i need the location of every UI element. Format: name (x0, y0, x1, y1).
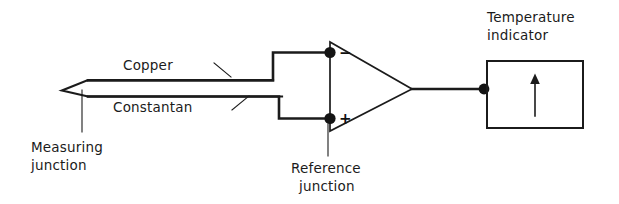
constantan-label: Constantan (113, 99, 193, 115)
copper-leader-line (214, 63, 231, 77)
diagram-canvas: − + Copper Constantan Measuring junction… (0, 0, 619, 204)
temperature-indicator-meter (487, 61, 583, 128)
probe-tip-wedge (62, 80, 282, 97)
noninverting-input-node-dot (324, 113, 335, 124)
thermocouple-diagram: − + Copper Constantan Measuring junction… (0, 0, 619, 204)
reference-junction-label-line2: junction (298, 178, 355, 194)
measuring-junction-label-line1: Measuring (31, 139, 103, 155)
inverting-input-sign: − (339, 44, 352, 62)
temperature-indicator-label-line1: Temperature (486, 9, 575, 25)
inverting-input-node-dot (324, 47, 335, 58)
constantan-leader-line (232, 96, 249, 110)
differential-amplifier: − + (330, 42, 412, 131)
reference-junction-label-line1: Reference (291, 160, 361, 176)
copper-label: Copper (123, 57, 173, 73)
temperature-indicator-label-line2: indicator (487, 27, 548, 43)
measuring-junction-label-line2: junction (30, 157, 87, 173)
meter-needle-arrowhead (530, 74, 540, 85)
thermocouple-probe (62, 80, 282, 97)
noninverting-input-sign: + (339, 110, 352, 128)
